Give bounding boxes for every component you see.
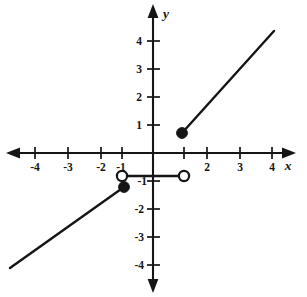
- x-tick-label-4: 4: [269, 161, 275, 173]
- x-tick-label-2: 2: [204, 161, 210, 173]
- y-tick-label--2: -2: [134, 203, 144, 215]
- x-tick-label--1: -1: [116, 161, 126, 173]
- y-tick-label-3: 3: [136, 63, 142, 75]
- x-axis-right-arrow-icon: [282, 148, 296, 159]
- axes-group: [6, 4, 296, 293]
- left-ray-branch: [10, 187, 124, 268]
- y-tick-label--1: -1: [137, 175, 147, 187]
- open-dot-middle-right: [179, 171, 189, 181]
- x-axis-left-arrow-icon: [6, 148, 20, 159]
- x-tick-label-3: 3: [237, 161, 243, 173]
- y-axis-up-arrow-icon: [148, 4, 159, 18]
- right-ray-branch: [182, 31, 274, 133]
- closed-dot-right-branch: [177, 128, 188, 139]
- y-tick-label-2: 2: [136, 91, 142, 103]
- y-tick-label-1: 1: [136, 119, 142, 131]
- graph-figure: -4 -3 -2 -1 2 3 4 4 3 2 1 -1 -2 -3 -4 x …: [0, 0, 307, 297]
- x-tick-label--2: -2: [96, 161, 106, 173]
- x-tick-label--3: -3: [63, 161, 73, 173]
- y-tick-label--3: -3: [134, 231, 144, 243]
- x-axis-label: x: [284, 158, 292, 173]
- y-axis-label: y: [161, 6, 170, 21]
- y-axis-down-arrow-icon: [148, 279, 159, 293]
- y-tick-label--4: -4: [134, 259, 144, 271]
- coordinate-plane-svg: -4 -3 -2 -1 2 3 4 4 3 2 1 -1 -2 -3 -4 x …: [0, 0, 307, 297]
- y-tick-label-4: 4: [136, 35, 142, 47]
- closed-dot-left-branch: [119, 182, 130, 193]
- x-tick-label--4: -4: [30, 161, 40, 173]
